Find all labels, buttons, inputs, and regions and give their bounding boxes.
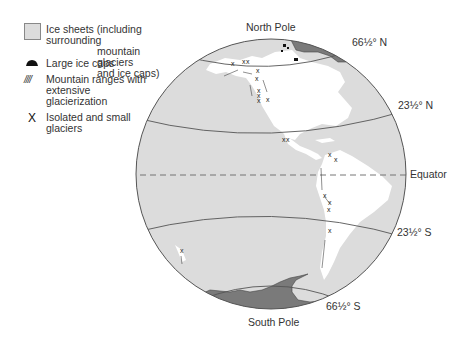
svg-text:x: x — [327, 206, 331, 213]
antarctic-circle-label: 66½° S — [326, 300, 361, 312]
svg-text:x: x — [256, 67, 260, 74]
equator-label: Equator — [410, 168, 447, 180]
svg-text:x: x — [257, 97, 261, 104]
globe-map: xxx xxx xxx xx xx xxx xx — [0, 0, 468, 340]
svg-text:x: x — [323, 192, 327, 199]
north-pole-label: North Pole — [246, 21, 296, 33]
south-pole-label: South Pole — [248, 316, 299, 328]
svg-text:x: x — [231, 60, 235, 67]
svg-text:x: x — [286, 136, 290, 143]
svg-text:x: x — [328, 151, 332, 158]
tropic-of-cancer-label: 23½° N — [398, 99, 433, 111]
arctic-circle-label: 66½° N — [352, 36, 387, 48]
tropic-of-capricorn-label: 23½° S — [397, 226, 432, 238]
svg-text:x: x — [255, 75, 259, 82]
svg-text:x: x — [328, 227, 332, 234]
svg-text:x: x — [246, 58, 250, 65]
svg-text:x: x — [266, 96, 270, 103]
svg-text:x: x — [180, 247, 184, 254]
svg-text:x: x — [334, 156, 338, 163]
